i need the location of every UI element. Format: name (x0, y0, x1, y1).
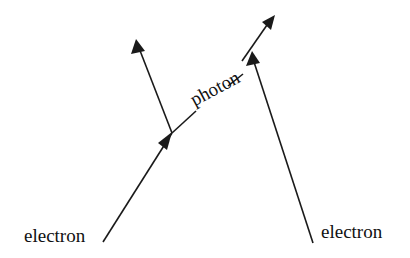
right-electron-label: electron (321, 222, 382, 241)
feynman-diagram: electron electron photon (0, 0, 410, 258)
incoming-electron-arrow-icon (158, 132, 172, 150)
electron-right-line (246, 51, 313, 243)
outgoing-electron-arrow-icon (131, 39, 145, 54)
outgoing-electron-left-line (131, 39, 172, 133)
left-electron-label: electron (24, 226, 85, 245)
diagram-canvas (0, 0, 410, 258)
incoming-electron-left-line (103, 132, 172, 242)
photon-arrow-icon (262, 15, 275, 30)
